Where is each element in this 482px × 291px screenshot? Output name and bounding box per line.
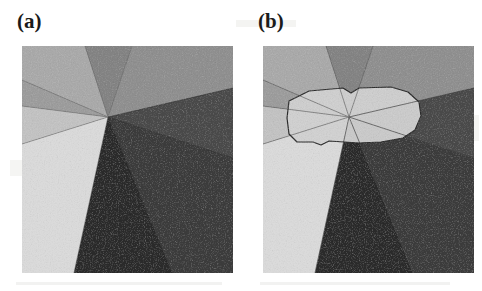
- panel-b-image: [263, 46, 474, 273]
- panel-a-image: [22, 46, 233, 273]
- panel-label-a: (a): [17, 8, 42, 34]
- figure-panel-a: (a): [0, 0, 241, 291]
- figure-panel-b: (b): [241, 0, 482, 291]
- panel-b-svg: [263, 46, 474, 273]
- panel-a-svg: [22, 46, 233, 273]
- figure-root: (a): [0, 0, 482, 291]
- panel-label-b: (b): [258, 8, 284, 34]
